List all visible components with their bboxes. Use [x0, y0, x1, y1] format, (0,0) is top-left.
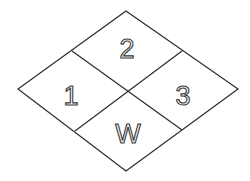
quadrant-left-label: 1	[63, 81, 78, 111]
quadrant-right-label: 3	[175, 81, 190, 111]
quadrant-bottom-label: W	[115, 119, 141, 149]
hazard-diamond: 1 2 3 W	[0, 0, 250, 181]
quadrant-top-label: 2	[119, 34, 134, 64]
